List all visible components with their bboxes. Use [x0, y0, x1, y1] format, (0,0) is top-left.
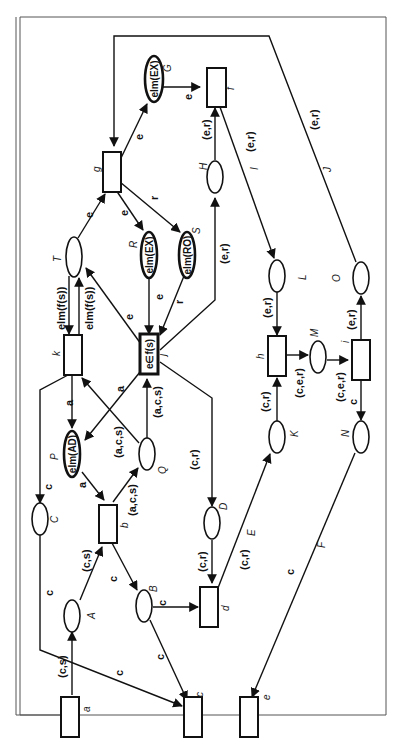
name-E: E — [246, 529, 257, 536]
name-g: g — [91, 166, 102, 172]
place-S-inner: elm(RO) — [182, 236, 193, 275]
name-d: d — [220, 605, 231, 611]
transition-a — [61, 697, 79, 737]
name-e: e — [261, 694, 272, 700]
place-G-inner: elm(EX) — [149, 60, 160, 97]
arc-label-S-j: r — [173, 299, 185, 304]
place-T — [66, 237, 82, 277]
arc-label-i-N: c — [347, 399, 359, 405]
arc-label-j-H: (e,r) — [218, 243, 230, 264]
arc-label-T-g: e — [83, 212, 95, 218]
name-M: M — [309, 328, 320, 337]
transition-k — [64, 335, 82, 375]
arc-label-j-D: (c,r) — [188, 449, 200, 470]
arc-label-L-h: (e,r) — [261, 297, 273, 318]
arc-label-g-S: r — [148, 195, 160, 200]
place-D — [204, 507, 220, 539]
name-Q: Q — [157, 466, 168, 474]
arc-label-k-T: elm(f(s)) — [83, 286, 95, 330]
arc-label-a-A: (c,s) — [56, 655, 68, 678]
transition-c — [184, 697, 202, 737]
name-c: c — [194, 692, 205, 697]
arc-label-M-i: (c,e,r) — [334, 372, 346, 402]
name-D: D — [218, 503, 229, 510]
transition-i — [352, 340, 370, 380]
name-T: T — [52, 255, 63, 262]
place-O — [353, 262, 369, 294]
arc-label-k-C: c — [42, 484, 54, 490]
place-L — [269, 260, 285, 292]
arc-label-C-c: c — [43, 590, 55, 596]
place-B — [136, 590, 152, 622]
arc-label-Q-j: (a,c,s) — [151, 386, 163, 418]
arc-label-k-P: a — [63, 399, 75, 406]
place-K — [269, 421, 285, 453]
transition-e — [240, 697, 258, 737]
name-i: i — [340, 340, 351, 343]
place-P-inner: elm(AD) — [67, 435, 78, 473]
name-R: R — [128, 241, 139, 248]
arc-label-N-e: c — [284, 569, 296, 575]
arc-label-i-O: (e,r) — [345, 309, 357, 330]
arc-label-j-T: e — [123, 314, 135, 320]
place-C — [32, 503, 48, 535]
arc-label-g-R: e — [118, 210, 130, 216]
arc-label-A-b: (c,s) — [80, 549, 92, 572]
transition-f — [207, 68, 226, 107]
transition-b — [99, 505, 117, 543]
arc-label-Q-k: (a,c,s) — [112, 426, 124, 458]
arc-label-H-f: (e,r) — [200, 119, 212, 140]
name-k: k — [51, 350, 62, 356]
name-F: F — [316, 541, 327, 548]
name-H: H — [198, 162, 209, 170]
name-L: L — [297, 274, 308, 280]
name-N: N — [340, 429, 351, 437]
arc-label-T-k: elm(f(s)) — [55, 286, 67, 330]
name-P: P — [49, 453, 60, 460]
inner-labels: elm(EX) elm(AD) elm(EX) elm(RO) e∈f(s) — [67, 60, 193, 473]
arc-label-K-h: (c,r) — [259, 391, 271, 412]
name-a: a — [81, 706, 92, 712]
arc-label-B-c: c — [154, 654, 166, 660]
arc-label-d-K: (c,r) — [238, 549, 250, 570]
arc-label-g-G: e — [133, 134, 145, 140]
place-N — [353, 421, 369, 453]
place-H — [207, 161, 223, 193]
name-I: I — [249, 167, 260, 170]
place-A — [64, 600, 80, 632]
name-K: K — [289, 429, 300, 437]
name-O: O — [331, 274, 342, 282]
arc-label-f-L: (e,r) — [244, 131, 256, 152]
arc-label-b-B: c — [107, 576, 119, 582]
petri-net-diagram: elm(EX) elm(AD) elm(EX) elm(RO) e∈f(s) a… — [0, 0, 401, 750]
name-G: G — [162, 64, 173, 72]
arc-label-P-b: a — [76, 481, 88, 488]
arc-label-D-d: (c,r) — [196, 551, 208, 572]
name-A: A — [86, 612, 97, 620]
name-S: S — [191, 227, 202, 234]
place-M — [310, 341, 326, 373]
name-C: C — [49, 515, 60, 523]
arc-label-b-Q: (a,c,s) — [126, 484, 138, 516]
name-B: B — [148, 585, 159, 592]
arc-label-O-g: (e,r) — [308, 109, 320, 130]
transition-h — [268, 336, 286, 376]
arc-label-C-c2: c — [113, 670, 125, 676]
transition-j-inner: e∈f(s) — [144, 339, 155, 369]
transition-d — [200, 587, 218, 627]
arc-label-R-j: e — [153, 294, 165, 300]
arc-label-B-d: c — [156, 600, 168, 606]
arc-label-j-P: a — [114, 385, 126, 392]
arc-label-h-M: (c,e,r) — [293, 368, 305, 398]
arc-label-G-f: e — [182, 94, 194, 100]
transition-g — [103, 152, 121, 192]
place-Q — [139, 438, 155, 470]
name-h: h — [255, 353, 266, 359]
place-R-inner: elm(EX) — [144, 236, 155, 273]
name-J: J — [322, 166, 333, 173]
name-b: b — [119, 522, 130, 528]
